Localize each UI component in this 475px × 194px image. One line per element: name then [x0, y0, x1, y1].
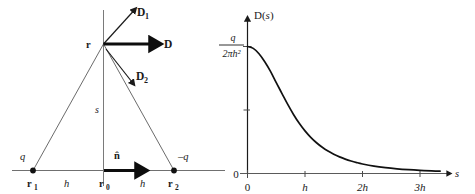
vector-n-hat-label: n̂ — [114, 150, 120, 161]
dipole-field-plot-panel: D(s) s q 2πh² 0 0 h 2h 3h — [219, 9, 459, 193]
point-r1-subscript: 1 — [34, 183, 38, 192]
point-r1-label: r — [27, 178, 32, 189]
plot-y-axis-label: D(s) — [254, 9, 274, 22]
vector-D1-subscript: 1 — [145, 12, 149, 21]
plot-x-tick-label-2h: 2h — [357, 181, 369, 193]
plot-data-curve — [248, 47, 441, 172]
plot-x-axis-label: s — [455, 168, 459, 179]
plot-y-tick-top-label: q 2πh² — [219, 32, 244, 59]
charge-negative-label: –q — [177, 151, 189, 162]
figure-canvas: D 1 D D 2 r s n̂ q –q r 1 r — [0, 0, 475, 194]
plot-x-tick-label-h: h — [302, 181, 308, 193]
distance-h-left-label: h — [64, 178, 69, 189]
plot-x-tick-label-0: 0 — [245, 181, 251, 193]
charge-dot-negative — [171, 168, 177, 174]
distance-s-label: s — [95, 104, 99, 115]
charge-dot-positive — [30, 168, 36, 174]
point-r2-subscript: 2 — [175, 183, 179, 192]
dipole-geometry-panel: D 1 D D 2 r s n̂ q –q r 1 r — [12, 6, 225, 192]
plot-y-zero-label: 0 — [233, 168, 239, 180]
point-r-label: r — [86, 39, 91, 50]
plot-y-label-numerator: q — [231, 32, 236, 43]
vector-D2 — [106, 49, 132, 82]
plot-x-tick-label-3h: 3h — [414, 181, 427, 193]
charge-positive-label: q — [20, 151, 25, 162]
vector-D-label: D — [164, 38, 172, 50]
figure-root: D 1 D D 2 r s n̂ q –q r 1 r — [0, 0, 475, 194]
point-r0-subscript: 0 — [106, 183, 110, 192]
plot-y-label-denominator: 2πh² — [222, 48, 241, 59]
point-r2-label: r — [168, 178, 173, 189]
vector-D1 — [104, 11, 134, 44]
vector-D2-subscript: 2 — [144, 76, 148, 85]
point-r0-label: r — [99, 178, 104, 189]
distance-h-right-label: h — [140, 178, 145, 189]
line-r1-to-r — [33, 44, 104, 171]
